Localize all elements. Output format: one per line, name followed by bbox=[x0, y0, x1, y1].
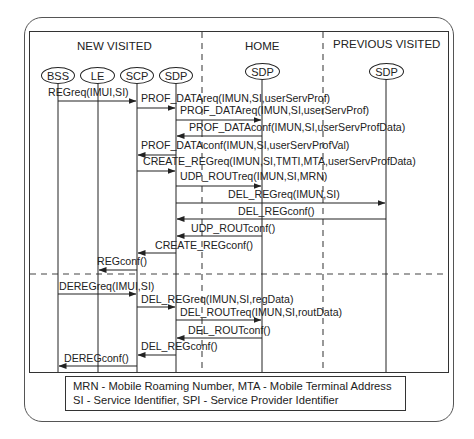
message-label: DEREGconf() bbox=[64, 352, 129, 364]
message-label: UDP_ROUTreq(IMUN,SI,MRN) bbox=[180, 170, 327, 182]
message-label: DEL_REGreq(IMUN,SI) bbox=[228, 188, 340, 200]
message-label: CREATE_REGreq(IMUN,SI,TMTI,MTA,userServP… bbox=[143, 155, 416, 167]
message-label: PROF_DATAconf(IMUN,SI,userServProfVal) bbox=[141, 139, 349, 151]
legend-line-1: MRN - Mobile Roaming Number, MTA - Mobil… bbox=[73, 379, 405, 393]
message-label: REGreq(IMUI,SI) bbox=[48, 86, 129, 98]
sequence-lines bbox=[0, 0, 474, 439]
legend-line-2: SI - Service Identifier, SPI - Service P… bbox=[73, 393, 405, 407]
message-label: DEL_REGconf() bbox=[238, 205, 315, 217]
message-label: PROF_DATAconf(IMUN,SI,userServProfData) bbox=[189, 121, 405, 133]
message-label: REGconf() bbox=[97, 255, 147, 267]
message-label: DEL_ROUTreq(IMUN,SI,routData) bbox=[180, 306, 342, 318]
message-label: DEL_ROUTconf() bbox=[188, 324, 270, 336]
message-label: PROF_DATAreq(IMUN,SI,userServProf) bbox=[180, 104, 369, 116]
participant-sdp-home: SDP bbox=[245, 63, 280, 80]
participant-le: LE bbox=[80, 67, 115, 84]
message-label: PROF_DATAreq(IMUN,SI,userServProf) bbox=[141, 92, 330, 104]
abbreviation-legend: MRN - Mobile Roaming Number, MTA - Mobil… bbox=[65, 376, 406, 411]
message-label: DEL_REGreq(IMUN,SI,regData) bbox=[141, 293, 293, 305]
message-label: DEREGreq(IMUI,SI) bbox=[59, 280, 154, 292]
participant-bss: BSS bbox=[41, 67, 75, 84]
message-label: UDP_ROUTconf() bbox=[191, 222, 275, 234]
participant-sdp-nv: SDP bbox=[159, 67, 193, 84]
participant-sdp-pv: SDP bbox=[369, 63, 404, 80]
participant-scp: SCP bbox=[120, 67, 154, 84]
message-label: DEL_REGconf() bbox=[141, 340, 218, 352]
message-label: CREATE_REGconf() bbox=[155, 239, 253, 251]
